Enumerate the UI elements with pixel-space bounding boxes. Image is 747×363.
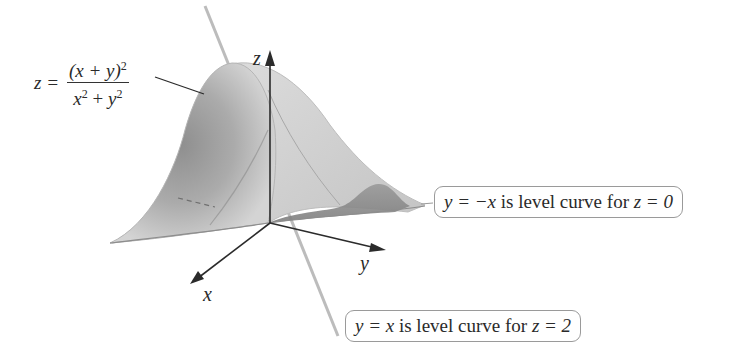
surface-plot <box>0 0 747 363</box>
equation-denominator: x2 + y2 <box>73 83 122 109</box>
equation-fraction: (x + y)2 x2 + y2 <box>67 56 129 109</box>
label-leader-z0 <box>421 203 433 204</box>
surface-equation: z = (x + y)2 x2 + y2 <box>34 56 129 109</box>
x-axis-arrowhead <box>190 271 204 284</box>
y-axis-label: y <box>360 252 369 275</box>
equation-lhs: z = <box>34 72 59 94</box>
formula-leader-line <box>155 77 204 94</box>
y-axis <box>270 223 376 248</box>
z-axis-label: z <box>253 47 261 70</box>
y-axis-arrowhead <box>369 243 386 252</box>
equation-numerator: (x + y)2 <box>67 56 129 83</box>
annotation-level-curve-z2: y = x is level curve for z = 2 <box>345 310 581 342</box>
x-axis-label: x <box>203 283 212 306</box>
z-axis-arrowhead <box>265 50 275 66</box>
annotation-level-curve-z0: y = −x is level curve for z = 0 <box>434 186 683 218</box>
